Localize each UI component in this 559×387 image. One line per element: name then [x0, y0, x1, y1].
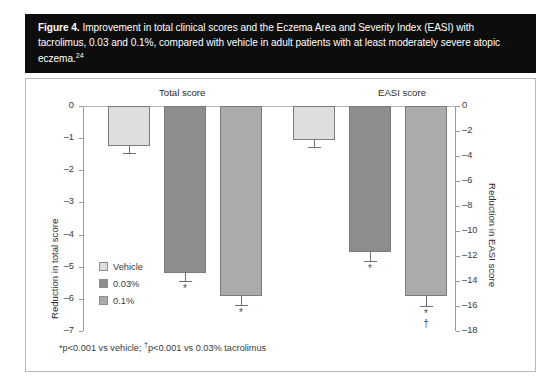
error-bar-cap [420, 306, 433, 307]
axis-tick [456, 206, 460, 207]
axis-tick-label: –1 [53, 132, 74, 142]
legend-swatch [99, 279, 108, 288]
axis-tick [456, 331, 460, 332]
legend-label: Vehicle [113, 262, 143, 272]
axis-tick-label: –10 [462, 225, 486, 235]
axis-tick-label: –4 [462, 150, 486, 160]
axis-tick [456, 131, 460, 132]
y-axis-line-right [455, 106, 456, 331]
chart-plot-area: Total score EASI score Reduction in tota… [25, 78, 536, 372]
axis-tick-label: –7 [53, 325, 74, 335]
error-bar-cap [364, 261, 377, 262]
legend-swatch [99, 296, 108, 305]
figure-caption: Figure 4. Improvement in total clinical … [25, 14, 536, 73]
bar-total-score-01[interactable] [220, 106, 262, 296]
error-bar-stem [426, 296, 427, 306]
axis-tick-label: –2 [53, 164, 74, 174]
axis-tick-label: –5 [53, 261, 74, 271]
axis-tick-label: –6 [53, 293, 74, 303]
error-bar-cap [308, 147, 321, 148]
axis-tick [79, 170, 83, 171]
significance-asterisk: * [234, 308, 248, 318]
legend-item-003[interactable]: 0.03% [99, 276, 143, 291]
axis-tick [79, 202, 83, 203]
axis-tick [79, 138, 83, 139]
bar-easi-score-Vehicle[interactable] [293, 106, 335, 140]
axis-tick-label: 0 [53, 100, 74, 110]
group-title-easi-score: EASI score [378, 87, 426, 98]
axis-tick-label: –6 [462, 175, 486, 185]
axis-tick [456, 306, 460, 307]
axis-tick [79, 267, 83, 268]
error-bar-cap [235, 305, 248, 306]
error-bar-stem [241, 296, 242, 306]
figure-caption-reference: 24 [76, 52, 84, 59]
legend-label: 0.03% [113, 279, 139, 289]
axis-tick [456, 106, 460, 107]
significance-asterisk: * [363, 264, 377, 274]
error-bar-stem [370, 252, 371, 261]
axis-tick-label: –14 [462, 275, 486, 285]
chart-footnote: *p<0.001 vs vehicle; †p<0.001 vs 0.03% t… [59, 341, 266, 353]
axis-tick [456, 156, 460, 157]
axis-tick-label: –18 [462, 325, 486, 335]
bar-total-score-Vehicle[interactable] [108, 106, 150, 146]
axis-tick [79, 299, 83, 300]
footnote-part-1: *p<0.001 vs vehicle; [59, 343, 144, 353]
axis-tick-label: –8 [462, 200, 486, 210]
axis-tick-label: –16 [462, 300, 486, 310]
bar-total-score-003[interactable] [164, 106, 206, 273]
error-bar-stem [314, 140, 315, 148]
bar-easi-score-003[interactable] [349, 106, 391, 252]
error-bar-stem [185, 273, 186, 281]
chart-legend: Vehicle0.03%0.1% [99, 259, 143, 310]
axis-tick [456, 231, 460, 232]
axis-tick [79, 331, 83, 332]
axis-tick [79, 106, 83, 107]
figure-number: Figure 4. [38, 22, 80, 33]
group-title-total-score: Total score [159, 87, 205, 98]
significance-asterisk: * [178, 284, 192, 294]
axis-tick-label: 0 [462, 100, 486, 110]
significance-dagger: † [419, 319, 433, 329]
figure-container: Figure 4. Improvement in total clinical … [0, 0, 559, 387]
y-axis-line-left [83, 106, 84, 331]
axis-tick [79, 235, 83, 236]
bar-easi-score-01[interactable] [405, 106, 447, 296]
legend-item-vehicle[interactable]: Vehicle [99, 259, 143, 274]
legend-item-01[interactable]: 0.1% [99, 293, 143, 308]
axis-tick-label: –3 [53, 196, 74, 206]
axis-tick-label: –12 [462, 250, 486, 260]
footnote-part-2: p<0.001 vs 0.03% tacrolimus [148, 343, 266, 353]
axis-tick-label: –4 [53, 229, 74, 239]
error-bar-cap [123, 153, 136, 154]
axis-tick [456, 256, 460, 257]
legend-label: 0.1% [113, 296, 134, 306]
y-axis-title-right: Reduction in EASI score [487, 183, 498, 287]
error-bar-cap [179, 281, 192, 282]
axis-tick [456, 281, 460, 282]
axis-tick [456, 181, 460, 182]
axis-tick-label: –2 [462, 125, 486, 135]
figure-caption-text: Improvement in total clinical scores and… [38, 22, 500, 64]
legend-swatch [99, 262, 108, 271]
